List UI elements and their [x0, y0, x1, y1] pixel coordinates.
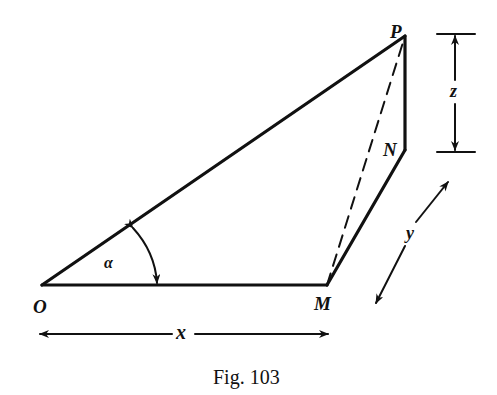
- angle-arc: [133, 228, 157, 283]
- label-x: x: [176, 322, 186, 342]
- line-op: [42, 36, 405, 285]
- line-mp-dashed: [327, 36, 405, 285]
- label-alpha: α: [104, 255, 113, 271]
- y-arrow-up: [416, 182, 448, 222]
- y-arrow-down: [376, 246, 405, 303]
- label-y: y: [406, 224, 414, 242]
- label-m: M: [314, 294, 331, 313]
- figure-caption: Fig. 103: [213, 367, 280, 387]
- label-o: O: [33, 297, 47, 316]
- label-n: N: [383, 140, 397, 159]
- diagram-lines: [0, 0, 497, 395]
- label-z: z: [450, 82, 457, 100]
- line-mn: [327, 150, 405, 285]
- figure-103: P N O M z y x α Fig. 103: [0, 0, 497, 395]
- label-p: P: [390, 22, 402, 41]
